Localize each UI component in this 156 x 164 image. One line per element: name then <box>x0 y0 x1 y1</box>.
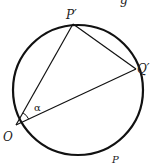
point-label-O: O <box>3 130 13 144</box>
angle-arc-alpha <box>23 113 29 119</box>
segment-O-Q-prime <box>16 69 136 125</box>
point-label-Q-prime: Q′ <box>137 62 150 76</box>
segment-O-P-prime <box>16 24 73 125</box>
point-label-P-prime: P′ <box>65 8 77 22</box>
geometry-diagram: g α P′ Q′ O P <box>0 0 156 164</box>
angle-label-alpha: α <box>34 102 41 113</box>
top-cropped-text: g <box>120 0 128 7</box>
bottom-label-P: P <box>111 154 119 164</box>
circle <box>13 25 143 155</box>
